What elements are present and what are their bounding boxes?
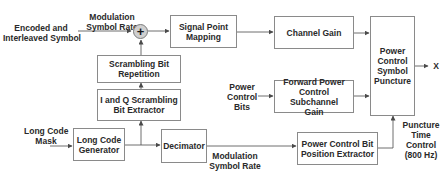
label-line: Symbol Rate [86, 22, 138, 32]
block-channel-gain: Channel Gain [274, 16, 354, 49]
block-label-line: Control Subchannel [275, 87, 353, 107]
block-label-line: Bit Extractor [100, 105, 177, 115]
block-label-line: Power [374, 46, 411, 56]
label-modulation-symbol-rate-top: Modulation Symbol Rate [86, 12, 138, 32]
label-line: Power [227, 82, 257, 92]
block-label-line: Long Code [77, 135, 121, 145]
label-line: Bits [227, 102, 257, 112]
label-modulation-symbol-rate-bottom: Modulation Symbol Rate [200, 151, 270, 171]
block-label-line: Gain [275, 107, 353, 117]
block-label-line: Repetition [109, 69, 169, 79]
label-line: Control [396, 140, 446, 150]
label-line: Modulation [200, 151, 270, 161]
block-label-line: I and Q Scrambling [100, 95, 177, 105]
label-power-control-bits: Power Control Bits [227, 82, 257, 112]
label-line: Puncture [396, 120, 446, 130]
label-puncture-time-control: Puncture Time Control (800 Hz) [396, 120, 446, 160]
label-line: Long Code [24, 126, 68, 136]
label-line: X [431, 61, 441, 71]
label-line: Interleaved Symbol [3, 33, 79, 43]
block-power-control-symbol-puncture: Power Control Symbol Puncture [370, 16, 415, 116]
label-line: Control [227, 92, 257, 102]
label-line: Time [396, 130, 446, 140]
block-label-line: Signal Point [179, 22, 228, 32]
block-label-line: Forward Power [275, 77, 353, 87]
block-power-control-bit-position-extractor: Power Control Bit Position Extractor [297, 132, 378, 165]
block-label-line: Channel Gain [287, 28, 342, 38]
block-label-line: Scrambling Bit [109, 59, 169, 69]
block-label-line: Puncture [374, 76, 411, 86]
block-long-code-generator: Long Code Generator [73, 128, 125, 161]
block-label-line: Symbol [374, 66, 411, 76]
block-label-line: Generator [77, 145, 121, 155]
block-label-line: Position Extractor [301, 149, 374, 159]
label-line: Mask [24, 136, 68, 146]
block-forward-power-control-subchannel-gain: Forward Power Control Subchannel Gain [274, 80, 354, 113]
block-label-line: Control [374, 56, 411, 66]
block-label-line: Mapping [179, 32, 228, 42]
label-line: (800 Hz) [396, 150, 446, 160]
block-label-line: Power Control Bit [301, 139, 374, 149]
block-scrambling-bit-repetition: Scrambling Bit Repetition [97, 55, 181, 83]
block-label-line: Decimator [163, 141, 205, 151]
label-long-code-mask: Long Code Mask [24, 126, 68, 146]
block-iq-scrambling-bit-extractor: I and Q Scrambling Bit Extractor [97, 89, 181, 121]
summer-node: + [133, 24, 148, 39]
label-line: Modulation [86, 12, 138, 22]
label-encoded-interleaved-symbol: Encoded and Interleaved Symbol [3, 23, 79, 43]
label-line: Encoded and [3, 23, 79, 33]
label-line: Symbol Rate [200, 161, 270, 171]
output-x-label: X [431, 61, 441, 71]
plus-icon: + [137, 25, 145, 38]
block-signal-point-mapping: Signal Point Mapping [170, 15, 237, 48]
